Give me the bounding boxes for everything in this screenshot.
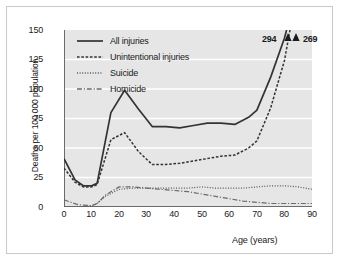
x-tick-label-70: 70 xyxy=(245,210,269,219)
x-tick-label-20: 20 xyxy=(107,210,131,219)
figure-container: Deaths per 100 000 population 150 125 10… xyxy=(0,0,340,261)
annotation-value-269: 269 xyxy=(303,35,317,44)
x-axis-title: Age (years) xyxy=(232,235,277,245)
legend-swatch-dash-dot-line-icon xyxy=(77,84,103,94)
y-tick-label-150: 150 xyxy=(3,26,43,35)
legend-swatch-dotted-line-icon xyxy=(77,68,103,78)
x-tick-label-50: 50 xyxy=(190,210,214,219)
off-scale-arrow-icon xyxy=(283,32,303,48)
legend-label-all-injuries: All injuries xyxy=(110,36,149,46)
y-tick-label-75: 75 xyxy=(3,114,43,123)
x-tick-label-10: 10 xyxy=(79,210,103,219)
legend-item-unintentional-injuries: Unintentional injuries xyxy=(77,49,227,65)
legend-item-suicide: Suicide xyxy=(77,65,227,81)
x-tick-label-30: 30 xyxy=(134,210,158,219)
legend-swatch-solid-line-icon xyxy=(77,36,103,46)
annotation-value-294: 294 xyxy=(262,35,276,44)
y-tick-label-0: 0 xyxy=(3,203,43,212)
y-tick-label-100: 100 xyxy=(3,85,43,94)
x-tick-label-40: 40 xyxy=(162,210,186,219)
legend: All injuries Unintentional injuries Suic… xyxy=(77,33,227,97)
series-line-homicide xyxy=(64,187,312,206)
legend-item-all-injuries: All injuries xyxy=(77,33,227,49)
legend-label-unintentional-injuries: Unintentional injuries xyxy=(110,52,189,62)
figure-frame: Deaths per 100 000 population 150 125 10… xyxy=(6,6,333,254)
legend-label-suicide: Suicide xyxy=(110,68,138,78)
legend-swatch-dashed-line-icon xyxy=(77,52,103,62)
x-tick-label-0: 0 xyxy=(52,210,76,219)
legend-label-homicide: Homicide xyxy=(110,84,146,94)
x-tick-label-90: 90 xyxy=(300,210,324,219)
y-tick-label-125: 125 xyxy=(3,55,43,64)
y-tick-label-25: 25 xyxy=(3,173,43,182)
legend-item-homicide: Homicide xyxy=(77,81,227,97)
y-tick-label-50: 50 xyxy=(3,144,43,153)
x-tick-label-60: 60 xyxy=(217,210,241,219)
x-tick-label-80: 80 xyxy=(272,210,296,219)
